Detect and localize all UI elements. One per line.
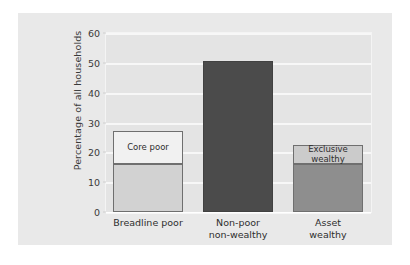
- plot-area: Percentage of all households 0 10 20 30 …: [105, 32, 372, 213]
- y-tick-label-10: 10: [88, 177, 100, 188]
- y-tick-mark: [103, 33, 106, 34]
- bar-annotation-core-poor: Core poor: [127, 143, 169, 152]
- bar-asset-wealthy[interactable]: Exclusive wealthy: [293, 145, 363, 212]
- bar-annotation-exclusive-wealthy: Exclusive wealthy: [308, 145, 348, 163]
- bar-segment-lower[interactable]: [113, 164, 183, 212]
- y-axis-title: Percentage of all households: [72, 0, 83, 216]
- bar-segment-upper-exclusive-wealthy[interactable]: Exclusive wealthy: [293, 145, 363, 165]
- y-tick-mark: [103, 122, 106, 123]
- bar-segment-lower[interactable]: [293, 164, 363, 212]
- y-tick-label-60: 60: [88, 28, 100, 39]
- bar-segment-solid[interactable]: [203, 61, 273, 212]
- y-tick-label-40: 40: [88, 87, 100, 98]
- y-tick-mark: [103, 62, 106, 63]
- y-tick-label-50: 50: [88, 57, 100, 68]
- x-tick-label-non-poor-non-wealthy: Non-poor non-wealthy: [209, 217, 268, 241]
- y-tick-mark: [103, 152, 106, 153]
- bar-breadline-poor[interactable]: Core poor: [113, 131, 183, 212]
- y-tick-label-0: 0: [94, 207, 100, 218]
- x-axis-line: [106, 212, 371, 213]
- bar-non-poor-non-wealthy[interactable]: [203, 61, 273, 212]
- x-tick-label-asset-wealthy: Asset wealthy: [307, 217, 350, 241]
- bar-segment-upper-core-poor[interactable]: Core poor: [113, 131, 183, 164]
- y-tick-label-30: 30: [88, 117, 100, 128]
- x-tick-label-breadline-poor: Breadline poor: [113, 217, 183, 229]
- y-tick-label-20: 20: [88, 147, 100, 158]
- figure-canvas: Percentage of all households 0 10 20 30 …: [18, 13, 392, 245]
- gridline: [106, 33, 371, 35]
- y-tick-mark: [103, 182, 106, 183]
- y-tick-mark: [103, 92, 106, 93]
